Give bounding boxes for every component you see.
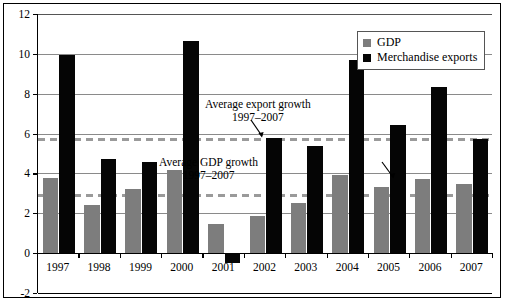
bar-gdp-2004 [332, 175, 348, 253]
x-tick-mark-1 [78, 253, 79, 258]
bar-gdp-2007 [456, 184, 472, 253]
bar-gdp-2005 [374, 187, 390, 253]
x-tick-label-2000: 2000 [170, 261, 193, 273]
bar-gdp-2006 [415, 179, 431, 253]
bar-merchandise-exports-2006 [431, 87, 447, 253]
y-axis-spine [37, 14, 38, 293]
arrow-to-export-average-line [248, 118, 272, 142]
x-tick-mark-10 [451, 253, 452, 258]
bar-gdp-1999 [125, 189, 141, 253]
y-tick-mark--2 [33, 293, 37, 294]
x-tick-mark-5 [244, 253, 245, 258]
x-tick-label-2002: 2002 [253, 261, 276, 273]
annotation-export-line1: Average export growth [205, 98, 311, 110]
x-tick-label-2005: 2005 [377, 261, 400, 273]
gridline-12 [38, 14, 492, 15]
bar-gdp-1997 [43, 178, 59, 253]
annotation-gdp-line1: Average GDP growth [159, 156, 258, 168]
legend-label-gdp: GDP [377, 35, 401, 50]
x-tick-label-2001: 2001 [212, 261, 235, 273]
gridline-8 [38, 94, 492, 95]
bar-merchandise-exports-2007 [473, 139, 489, 253]
x-tick-mark-9 [409, 253, 410, 258]
x-tick-label-2004: 2004 [336, 261, 359, 273]
legend-swatch-gdp [363, 39, 371, 47]
bar-gdp-2000 [167, 170, 183, 253]
y-tick-label-2: 2 [24, 207, 30, 219]
x-tick-label-1997: 1997 [46, 261, 69, 273]
arrow-to-gdp-average-line [380, 160, 404, 184]
y-tick-label-12: 12 [19, 8, 31, 20]
annotation-gdp-line2: 1997–2007 [159, 169, 258, 182]
bar-gdp-2002 [250, 216, 266, 253]
chart-container: -2024681012 1997199819992000200120022003… [0, 0, 505, 302]
x-tick-mark-7 [327, 253, 328, 258]
chart-legend: GDP Merchandise exports [357, 31, 485, 70]
bar-merchandise-exports-2000 [183, 41, 199, 253]
y-tick-label-8: 8 [24, 88, 30, 100]
legend-item-gdp: GDP [363, 35, 477, 50]
bar-merchandise-exports-2002 [266, 138, 282, 253]
y-tick-label-0: 0 [24, 247, 30, 259]
legend-swatch-merchandise-exports [363, 54, 371, 62]
x-tick-mark-3 [161, 253, 162, 258]
bar-merchandise-exports-2005 [390, 125, 406, 253]
bar-gdp-2001 [208, 224, 224, 253]
y-tick-label-6: 6 [24, 128, 30, 140]
gridline-0 [38, 253, 492, 254]
x-tick-label-2007: 2007 [460, 261, 483, 273]
x-tick-mark-8 [368, 253, 369, 258]
x-tick-mark-2 [120, 253, 121, 258]
x-tick-mark-4 [202, 253, 203, 258]
bar-merchandise-exports-1998 [101, 159, 117, 253]
axis-bottom-line [38, 293, 492, 294]
legend-item-merchandise-exports: Merchandise exports [363, 50, 477, 65]
x-tick-label-2003: 2003 [294, 261, 317, 273]
x-tick-mark-6 [285, 253, 286, 258]
annotation-average-gdp-growth: Average GDP growth 1997–2007 [159, 156, 258, 182]
bar-merchandise-exports-2004 [349, 60, 365, 253]
x-tick-label-1998: 1998 [88, 261, 111, 273]
y-tick-label-10: 10 [19, 48, 31, 60]
bar-gdp-2003 [291, 203, 307, 253]
y-tick-label--2: -2 [20, 287, 30, 299]
x-tick-label-2006: 2006 [418, 261, 441, 273]
bar-merchandise-exports-1997 [59, 55, 75, 253]
bar-merchandise-exports-2003 [307, 146, 323, 253]
y-tick-label-4: 4 [24, 167, 30, 179]
bar-merchandise-exports-1999 [142, 162, 158, 253]
bar-gdp-1998 [84, 205, 100, 253]
legend-label-merchandise-exports: Merchandise exports [377, 50, 477, 65]
x-tick-mark-end [492, 253, 493, 258]
x-tick-label-1999: 1999 [129, 261, 152, 273]
